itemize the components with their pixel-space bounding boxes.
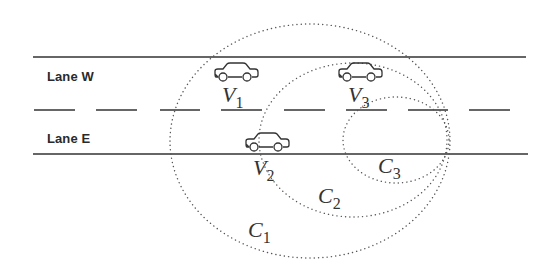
vehicle-label-v2: V2 (253, 157, 274, 184)
vehicle-label-v3: V3 (348, 84, 369, 111)
vehicle-label-v1: V1 (222, 84, 243, 111)
range-label-c2: C2 (318, 185, 341, 212)
range-label-c1: C1 (248, 219, 271, 246)
communication-range-circles (170, 24, 450, 258)
lane-e-label: Lane E (47, 131, 90, 146)
car-icon (215, 63, 258, 81)
range-label-c3: C3 (378, 155, 401, 182)
car-icon (246, 133, 289, 151)
range-circle-c1 (170, 24, 450, 258)
lane-w-label: Lane W (47, 69, 94, 84)
road-lines (33, 57, 528, 154)
